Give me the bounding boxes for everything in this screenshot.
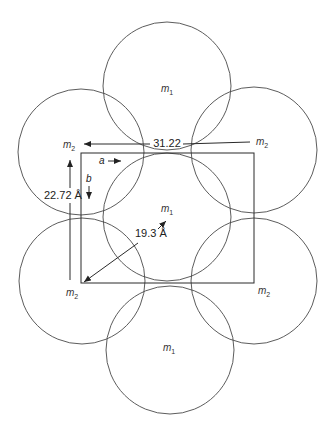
svg-text:m1: m1 — [163, 342, 175, 355]
label-m1-bottom: m1 — [163, 342, 175, 355]
svg-text:m2: m2 — [258, 285, 270, 298]
axis-a-label: a — [99, 155, 105, 166]
svg-text:m1: m1 — [161, 83, 173, 96]
label-m2-upper-left: m2 — [63, 139, 75, 152]
axis-b-label: b — [86, 173, 92, 184]
label-m2-lower-left: m2 — [66, 287, 78, 300]
a-dimension-label: 31.22 — [153, 137, 181, 149]
molecule-circle-m1-center — [103, 153, 231, 281]
label-m1-top: m1 — [161, 83, 173, 96]
svg-text:m2: m2 — [256, 136, 268, 149]
label-m1-center: m1 — [161, 203, 173, 216]
label-m2-upper-right: m2 — [256, 136, 268, 149]
svg-text:m2: m2 — [63, 139, 75, 152]
svg-text:m2: m2 — [66, 287, 78, 300]
a-dimension-line-right — [183, 142, 250, 144]
unit-cell-diagram: 31.22 22.72 Å 19.3 Å a b m1 m2 m2 m1 m2 … — [0, 0, 335, 431]
unit-cell-rectangle — [81, 153, 254, 283]
molecule-circle-m2-lower-left — [19, 218, 145, 344]
b-dimension-label: 22.72 Å — [44, 189, 83, 201]
svg-text:m1: m1 — [161, 203, 173, 216]
diagonal-dimension-label: 19.3 Å — [135, 227, 167, 239]
label-m2-lower-right: m2 — [258, 285, 270, 298]
